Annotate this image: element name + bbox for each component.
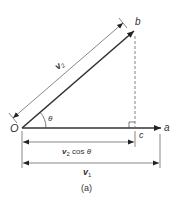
label-b: b [135,16,141,27]
vector-ob [22,31,134,128]
vector-projection-diagram: O a b c θ v2 v2 cos θ v1 (a) [0,0,174,208]
dimension-v2-tick-end [119,18,127,28]
right-angle-icon [129,122,135,128]
dimension-v2 [13,23,123,118]
angle-arc [40,112,46,128]
caption: (a) [81,183,92,193]
svg-text:v2: v2 [53,58,67,72]
label-v1: v1 [83,167,92,178]
label-theta: θ [48,114,53,123]
label-a: a [164,122,170,133]
label-v2-cos-theta: v2 cos θ [62,147,92,157]
label-origin: O [10,122,19,134]
label-c: c [139,130,144,140]
label-v2: v2 [53,58,67,72]
